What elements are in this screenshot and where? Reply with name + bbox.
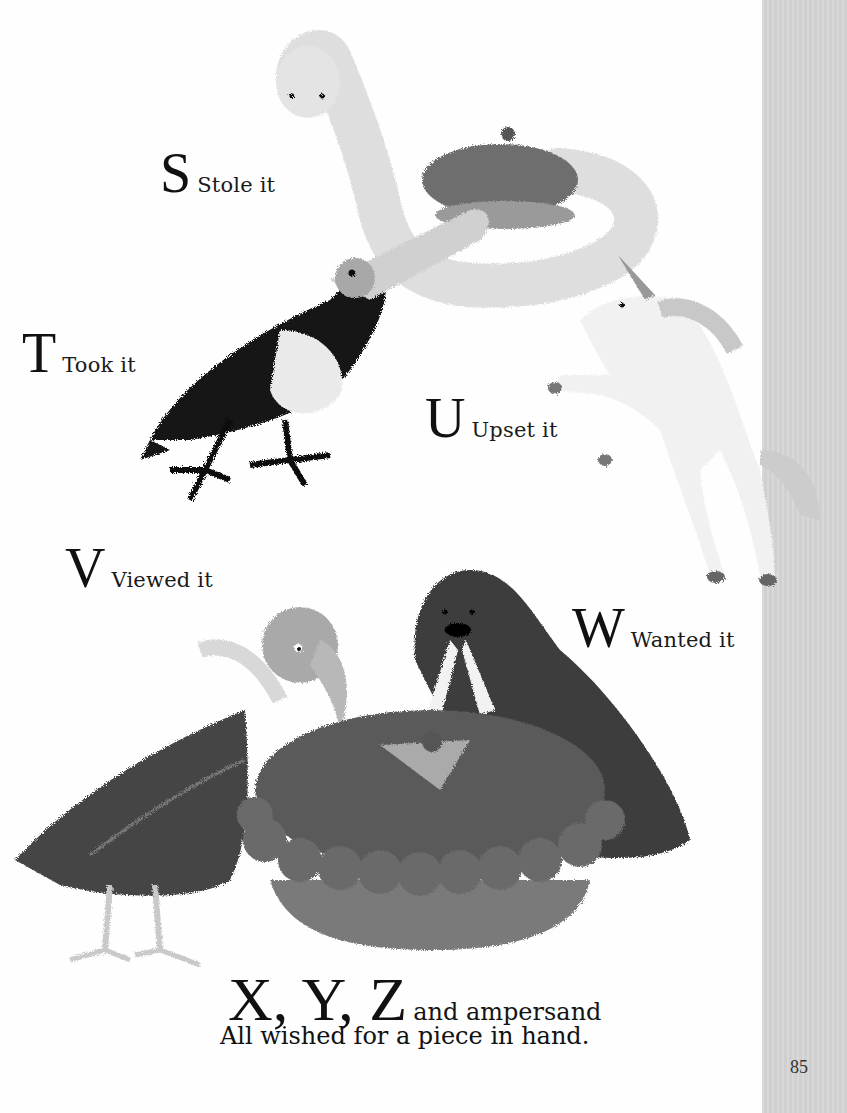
label-u: UUpset it (425, 390, 558, 446)
letter-w: W (572, 597, 625, 659)
label-s-text: Stole it (197, 173, 275, 197)
letter-t: T (22, 322, 56, 384)
label-u-text: Upset it (471, 418, 557, 442)
small-pie-illustration (422, 127, 578, 229)
label-s: SStole it (160, 145, 275, 201)
unicorn-illustration (548, 255, 820, 586)
closing-line-2: All wished for a piece in hand. (220, 1022, 589, 1050)
label-w-text: Wanted it (631, 628, 735, 652)
letter-u: U (425, 387, 465, 449)
label-v-text: Viewed it (111, 568, 212, 592)
letter-v: V (65, 537, 105, 599)
label-w: WWanted it (572, 600, 735, 656)
book-page: SStole it TTook it UUpset it VViewed it … (0, 0, 847, 1113)
big-pie-illustration (237, 710, 625, 950)
toucan-illustration (140, 209, 489, 500)
label-v: VViewed it (65, 540, 213, 596)
closing-line-1: X, Y, Zand ampersand (228, 968, 601, 1030)
letter-s: S (160, 142, 191, 204)
label-t-text: Took it (62, 353, 136, 377)
page-number: 85 (790, 1057, 808, 1078)
label-t: TTook it (22, 325, 136, 381)
